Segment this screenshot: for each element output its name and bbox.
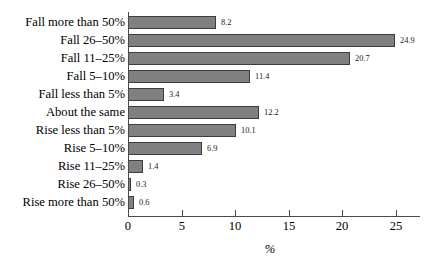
x-axis-tick-label: 15 [269,219,309,234]
bar-value-label: 3.4 [169,90,179,100]
category-label: Fall 26–50% [3,34,125,47]
bar-value-label: 12.2 [264,108,279,118]
y-axis-line [128,12,129,217]
bar-value-label: 6.9 [207,144,217,154]
bar-value-label: 10.1 [241,126,256,136]
bar [128,16,216,29]
category-label: Rise 26–50% [3,178,125,191]
x-axis-tick [235,210,236,216]
category-label: Rise 11–25% [3,160,125,173]
bar-chart: Fall more than 50% Fall 26–50% Fall 11–2… [0,0,439,271]
category-label: Fall 5–10% [3,70,125,83]
x-axis-tick-label: 0 [108,219,148,234]
x-axis-tick [182,210,183,216]
bar-value-label: 8.2 [221,18,231,28]
bar-value-label: 11.4 [255,72,269,82]
category-label: Rise more than 50% [3,196,125,209]
x-axis-tick-label: 25 [376,219,416,234]
x-axis-tick-label: 20 [322,219,362,234]
bar [128,88,164,101]
x-axis-tick [342,210,343,216]
category-label: Rise less than 5% [3,124,125,137]
x-axis-tick-label: 5 [162,219,202,234]
bar-value-label: 1.4 [148,162,158,172]
bar-value-label: 0.6 [139,198,149,208]
bar [128,52,350,65]
category-label: Rise 5–10% [3,142,125,155]
category-label: Fall less than 5% [3,88,125,101]
x-axis-tick [128,210,129,216]
x-axis-title: % [250,242,290,257]
bar-value-label: 20.7 [355,54,370,64]
bar-value-label: 24.9 [400,36,415,46]
x-axis-tick [289,210,290,216]
bar [128,70,250,83]
x-axis-tick [396,210,397,216]
bar [128,106,259,119]
plot-area: Fall more than 50% Fall 26–50% Fall 11–2… [0,0,439,271]
bar [128,124,236,137]
category-label: About the same [3,106,125,119]
bar [128,34,395,47]
bar [128,160,143,173]
x-axis-tick-label: 10 [215,219,255,234]
bar [128,142,202,155]
x-axis-line [128,216,420,217]
bar-value-label: 0.3 [136,180,146,190]
category-label: Fall more than 50% [3,16,125,29]
category-label: Fall 11–25% [3,52,125,65]
